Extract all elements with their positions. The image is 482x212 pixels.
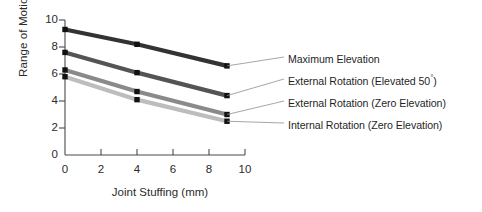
legend-label-0: Maximum Elevation [288, 53, 380, 65]
legend-label-1-suffix: ) [433, 75, 436, 87]
data-point-marker [62, 27, 67, 32]
legend-leader-3 [227, 121, 284, 123]
legend-item-maximum-elevation: Maximum Elevation [288, 53, 380, 65]
legend-item-external-rotation-zero: External Rotation (Zero Elevation) [288, 97, 446, 109]
legend-item-external-rotation-elevated: External Rotation (Elevated 50°) [288, 75, 437, 87]
series-line-1 [62, 50, 229, 99]
series-line-3 [62, 74, 229, 124]
legend-leader-lines [227, 57, 284, 123]
data-point-marker [134, 97, 139, 102]
data-point-marker [134, 70, 139, 75]
legend-label-2: External Rotation (Zero Elevation) [288, 97, 446, 109]
data-point-marker [134, 89, 139, 94]
legend-label-3: Internal Rotation (Zero Elevation) [288, 119, 442, 131]
data-point-marker [134, 42, 139, 47]
data-point-marker [62, 67, 67, 72]
legend-leader-2 [227, 101, 284, 115]
legend-item-internal-rotation-zero: Internal Rotation (Zero Elevation) [288, 119, 442, 131]
series-line-0 [62, 27, 229, 69]
data-series-layer [62, 27, 229, 124]
x-axis-ticks [101, 149, 245, 155]
data-point-marker [62, 50, 67, 55]
legend-leader-0 [227, 57, 284, 66]
data-point-marker [62, 74, 67, 79]
legend-label-1: External Rotation (Elevated 50 [288, 75, 430, 87]
chart-container: Range of Motion (°) Joint Stuffing (mm) … [0, 0, 482, 212]
legend-leader-1 [227, 79, 284, 96]
data-point-marker [224, 93, 229, 98]
